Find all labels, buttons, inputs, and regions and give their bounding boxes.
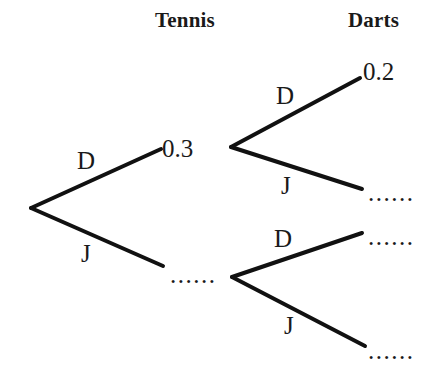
branch-line-root-d (31, 149, 161, 208)
probability-blank-darts-j2: ...... (368, 338, 415, 363)
probability-blank-tennis-j: ...... (170, 262, 217, 287)
probability-tree-diagram: Tennis Darts D J D J D J 0.3 ...... 0.2 … (0, 0, 436, 373)
branch-label-bottom-d: D (274, 226, 292, 251)
probability-blank-darts-d2: ...... (368, 224, 415, 249)
branch-line-root-j (31, 208, 163, 266)
branch-line-top-j (231, 147, 362, 189)
column-header-tennis: Tennis (155, 8, 215, 33)
branch-label-root-d: D (77, 148, 95, 173)
probability-blank-darts-j1: ...... (368, 180, 415, 205)
branch-label-top-j: J (281, 173, 291, 198)
branch-label-top-d: D (276, 83, 294, 108)
branch-label-bottom-j: J (284, 313, 294, 338)
branch-line-top-d (231, 78, 360, 147)
probability-darts-d1: 0.2 (363, 59, 394, 84)
column-header-darts: Darts (348, 8, 399, 33)
branch-line-bottom-d (232, 233, 362, 277)
probability-tennis-d: 0.3 (162, 136, 193, 161)
branch-line-bottom-j (232, 277, 365, 346)
branch-label-root-j: J (81, 241, 91, 266)
